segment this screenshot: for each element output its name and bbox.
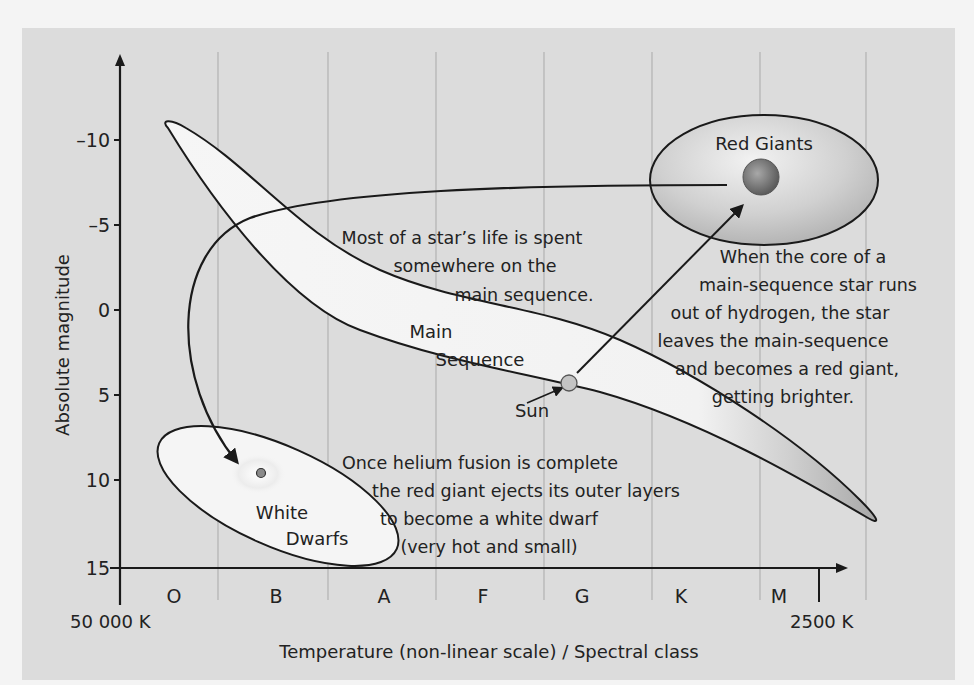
svg-text:main sequence.: main sequence. bbox=[454, 285, 593, 305]
svg-text:somewhere on the: somewhere on the bbox=[393, 256, 556, 276]
red-giant-star-icon bbox=[743, 159, 779, 195]
svg-text:Once helium fusion is complete: Once helium fusion is complete bbox=[342, 453, 618, 473]
red-giants-label: Red Giants bbox=[715, 133, 813, 154]
spectral-class-o: O bbox=[167, 585, 182, 607]
spectral-class-a: A bbox=[378, 585, 391, 607]
x-axis-left-temp: 50 000 K bbox=[70, 611, 152, 632]
x-axis-label: Temperature (non-linear scale) / Spectra… bbox=[278, 641, 698, 662]
y-tick-label: –5 bbox=[88, 214, 110, 236]
main-sequence-label-line1: Main bbox=[410, 321, 453, 342]
y-tick-label: 15 bbox=[86, 557, 110, 579]
y-tick-label: 0 bbox=[98, 299, 110, 321]
white-dwarfs-label-line2: Dwarfs bbox=[286, 528, 349, 549]
y-tick-label: 10 bbox=[86, 469, 110, 491]
svg-text:(very hot and small): (very hot and small) bbox=[400, 537, 577, 557]
svg-text:and becomes a red giant,: and becomes a red giant, bbox=[675, 359, 899, 379]
svg-text:out of hydrogen, the star: out of hydrogen, the star bbox=[671, 303, 891, 323]
white-dwarf-star-icon bbox=[257, 469, 266, 478]
svg-text:to become a white dwarf: to become a white dwarf bbox=[380, 509, 599, 529]
spectral-class-g: G bbox=[575, 585, 590, 607]
svg-text:the red giant ejects its outer: the red giant ejects its outer layers bbox=[372, 481, 680, 501]
svg-text:leaves the main-sequence: leaves the main-sequence bbox=[658, 331, 889, 351]
main-sequence-label-line2: Sequence bbox=[436, 349, 525, 370]
svg-text:main-sequence star runs: main-sequence star runs bbox=[699, 275, 917, 295]
spectral-class-labels: O B A F G K M bbox=[167, 585, 788, 607]
y-axis-tick-labels: –10 –5 0 5 10 15 bbox=[76, 129, 110, 579]
sun-icon bbox=[561, 375, 577, 391]
spectral-class-b: B bbox=[269, 585, 282, 607]
white-dwarfs-label-line1: White bbox=[256, 502, 308, 523]
sun-label: Sun bbox=[515, 400, 549, 421]
svg-text:When the core of a: When the core of a bbox=[720, 247, 887, 267]
spectral-class-f: F bbox=[478, 585, 489, 607]
hr-diagram: –10 –5 0 5 10 15 Absolute magnitude O B … bbox=[0, 0, 974, 685]
x-axis-arrow-icon bbox=[836, 563, 848, 573]
y-axis-arrow-icon bbox=[115, 54, 125, 66]
spectral-class-m: M bbox=[771, 585, 787, 607]
x-axis-right-temp: 2500 K bbox=[790, 611, 855, 632]
y-axis-label: Absolute magnitude bbox=[52, 254, 73, 436]
svg-text:getting brighter.: getting brighter. bbox=[712, 387, 854, 407]
svg-text:Most of a star’s life is spent: Most of a star’s life is spent bbox=[342, 228, 583, 248]
spectral-class-k: K bbox=[675, 585, 688, 607]
y-tick-label: 5 bbox=[98, 384, 110, 406]
y-tick-label: –10 bbox=[76, 129, 110, 151]
